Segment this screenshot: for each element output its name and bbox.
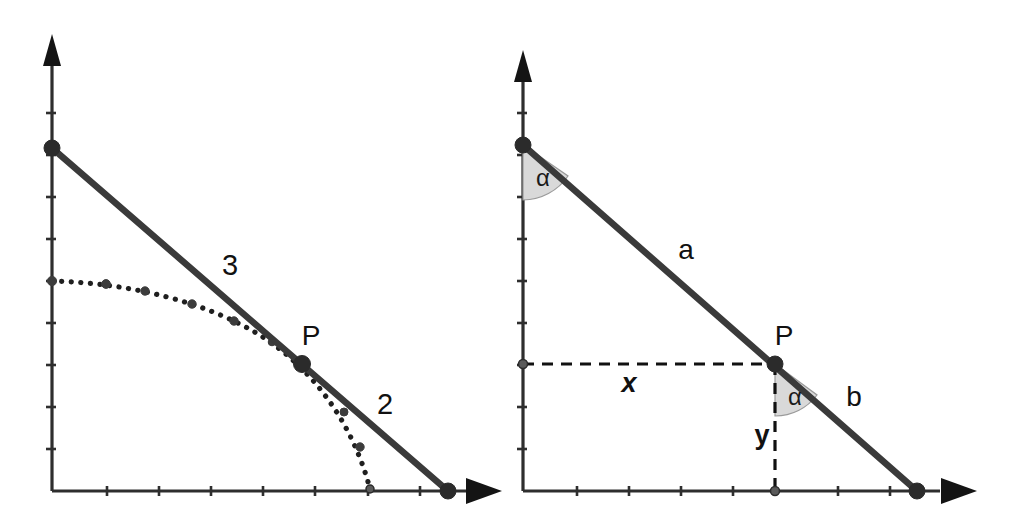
right-panel: a b P x y α α (514, 50, 977, 504)
figure-root: 3 2 P (0, 0, 1020, 524)
left-y-intercept-dot (44, 140, 60, 156)
left-x-intercept-dot (440, 483, 456, 499)
left-segment-upper-label: 3 (222, 249, 238, 281)
left-x-axis-arrow-icon (466, 478, 502, 504)
right-tangency-point-label: P (775, 320, 794, 351)
right-budget-line (523, 145, 917, 491)
right-x-intercept-dot (909, 483, 925, 499)
left-y-axis-arrow-icon (43, 34, 61, 66)
horizontal-leg-label: x (619, 368, 637, 398)
angle-at-p-label: α (788, 383, 802, 410)
right-y-intercept-dot (515, 137, 531, 153)
right-x-axis-arrow-icon (941, 478, 977, 504)
left-tangency-point-label: P (302, 320, 321, 351)
right-segment-lower-label: b (846, 381, 862, 412)
y-axis-guide-dot (519, 360, 528, 369)
angle-top-label: α (536, 164, 550, 191)
right-segment-upper-label: a (678, 234, 694, 265)
left-segment-lower-label: 2 (377, 388, 393, 420)
geometry-figure: 3 2 P (0, 0, 1020, 524)
left-panel: 3 2 P (43, 34, 502, 504)
x-axis-guide-dot (771, 487, 780, 496)
left-tangency-point-dot (294, 356, 311, 373)
vertical-leg-label: y (754, 420, 769, 450)
left-budget-line (52, 148, 448, 491)
right-tangency-point-dot (767, 356, 783, 372)
right-y-axis-arrow-icon (514, 50, 532, 82)
